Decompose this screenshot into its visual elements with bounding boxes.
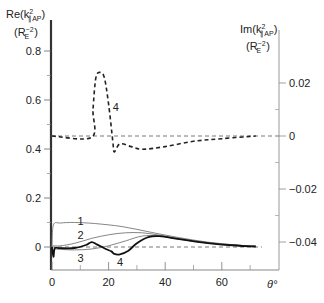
- right-axis-title: Im(k2∥AP): [240, 23, 277, 38]
- left-tick-label: 0: [35, 241, 41, 253]
- left-y-ticks: 00.20.40.60.8: [26, 45, 51, 253]
- right-tick-label: −0.04: [289, 236, 317, 248]
- x-tick-label: 0: [49, 276, 55, 288]
- curve-label-4: 4: [117, 256, 123, 268]
- left-axis-title: Re(k2∥AP): [6, 8, 45, 23]
- left-axis-unit: (R−2E): [14, 26, 38, 40]
- curve-label-4: 4: [113, 101, 119, 113]
- left-tick-label: 0.8: [26, 45, 41, 57]
- x-tick-label: 40: [159, 276, 171, 288]
- x-ticks: 0204060: [49, 262, 250, 288]
- right-tick-label: 0: [289, 130, 295, 142]
- curve-labels: 12344: [77, 101, 123, 268]
- series-4-right-curve: [52, 72, 256, 152]
- x-tick-label: 60: [216, 276, 228, 288]
- left-tick-label: 0.4: [26, 143, 41, 155]
- right-tick-label: 0.02: [289, 77, 310, 89]
- right-axis-unit: (R−2E): [246, 40, 270, 54]
- right-y-ticks: 0.020−0.02−0.04: [275, 77, 317, 248]
- left-tick-label: 0.2: [26, 192, 41, 204]
- x-tick-label: 20: [102, 276, 114, 288]
- right-tick-label: −0.02: [289, 183, 317, 195]
- curve-label-3: 3: [77, 252, 83, 264]
- curve-label-1: 1: [77, 215, 83, 227]
- chart: 00.20.40.60.8 0.020−0.02−0.04 0204060 12…: [0, 0, 324, 303]
- left-tick-label: 0.6: [26, 94, 41, 106]
- curve-label-2: 2: [77, 229, 83, 241]
- x-axis-title: θ°: [267, 278, 278, 290]
